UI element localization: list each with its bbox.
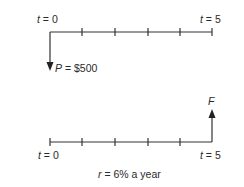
bottom-end-label: t = 5 — [200, 149, 221, 161]
future-value-label: F — [208, 95, 214, 107]
bottom-start-label: t = 0 — [38, 149, 59, 161]
arrow-down-icon — [47, 62, 54, 71]
label-rest: = $500 — [62, 62, 97, 74]
label-rest: = 5 — [203, 149, 221, 161]
bottom-timeline — [50, 116, 212, 146]
label-rest: = 0 — [41, 149, 59, 161]
top-end-label: t = 5 — [200, 13, 221, 25]
top-start-label: t = 0 — [37, 13, 58, 25]
label-rest: = 0 — [40, 13, 58, 25]
top-timeline — [50, 28, 212, 64]
interest-rate-label: r = 6% a year — [98, 168, 161, 180]
label-rest: = 6% a year — [102, 168, 161, 180]
label-var: F — [208, 95, 214, 107]
arrow-up-icon — [209, 109, 216, 118]
label-var: P — [55, 62, 62, 74]
present-value-label: P = $500 — [55, 62, 97, 74]
label-rest: = 5 — [203, 13, 221, 25]
